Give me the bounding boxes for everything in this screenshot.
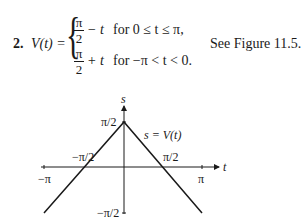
y-tick-top-label: π/2 (101, 115, 116, 130)
x-tick-neg-pi-label: −π (38, 172, 51, 187)
t-axis-label: t (223, 160, 226, 175)
x-tick-pos-half-label: π/2 (163, 150, 178, 165)
x-tick-neg-half-label: −π/2 (72, 150, 94, 165)
s-axis-label: s (121, 92, 126, 107)
curve-label: s = V(t) (144, 128, 181, 143)
graph (0, 0, 301, 224)
x-tick-pos-pi-label: π (198, 172, 204, 187)
y-tick-bottom-label: −π/2 (97, 206, 119, 221)
